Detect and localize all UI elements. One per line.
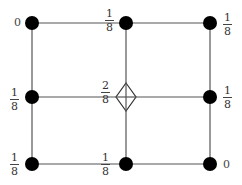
grid-diagram bbox=[0, 0, 242, 185]
label-middle-right: 18 bbox=[223, 85, 232, 110]
label-bottom-left: 18 bbox=[10, 152, 19, 177]
label-bottom-right: 0 bbox=[223, 158, 230, 171]
label-bottom-middle: 18 bbox=[101, 152, 110, 177]
node-middle-right bbox=[203, 90, 217, 104]
label-center: 28 bbox=[101, 80, 110, 105]
node-bottom-middle bbox=[119, 157, 133, 171]
node-middle-left bbox=[25, 90, 39, 104]
label-top-left: 0 bbox=[14, 16, 21, 29]
label-middle-left: 18 bbox=[10, 87, 19, 112]
label-top-middle: 18 bbox=[105, 8, 114, 33]
node-bottom-left bbox=[25, 157, 39, 171]
node-bottom-right bbox=[203, 157, 217, 171]
node-top-right bbox=[203, 16, 217, 30]
node-top-left bbox=[25, 16, 39, 30]
label-top-right: 18 bbox=[223, 12, 232, 37]
node-top-middle bbox=[119, 16, 133, 30]
